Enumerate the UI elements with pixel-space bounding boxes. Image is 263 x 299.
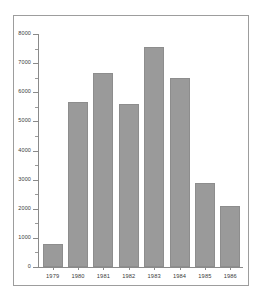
y-tick-label: 0 [28,263,31,269]
y-minor-tick-mark [35,49,38,50]
y-minor-tick-mark [35,194,38,195]
y-axis-line [38,34,39,267]
bar [195,183,215,267]
x-tick-label: 1980 [66,273,90,279]
bar [43,244,63,267]
y-tick-label: 4000 [18,147,31,153]
x-tick-label: 1986 [218,273,242,279]
bar [119,104,139,267]
x-tick-label: 1983 [142,273,166,279]
y-minor-tick-mark [35,223,38,224]
x-tick-label: 1981 [91,273,115,279]
y-tick-label-wrap: 5000 [33,121,38,122]
y-tick-label: 1000 [18,234,31,240]
x-tick-label: 1985 [193,273,217,279]
y-tick-label: 3000 [18,176,31,182]
y-tick-label-wrap: 0 [33,267,38,268]
bar [93,73,113,267]
x-tick-mark [129,267,130,270]
y-tick-label: 8000 [18,30,31,36]
y-tick-label-wrap: 2000 [33,209,38,210]
bar [170,78,190,267]
y-tick-label-wrap: 8000 [33,34,38,35]
y-tick-label-wrap: 6000 [33,92,38,93]
bar [220,206,240,267]
bar [144,47,164,267]
y-tick-label: 5000 [18,117,31,123]
x-axis-line [38,267,243,268]
y-tick-label: 7000 [18,59,31,65]
x-tick-mark [78,267,79,270]
y-tick-label-wrap: 1000 [33,238,38,239]
x-tick-mark [53,267,54,270]
y-tick-label: 6000 [18,88,31,94]
x-tick-mark [230,267,231,270]
bar [68,102,88,267]
x-tick-label: 1979 [41,273,65,279]
y-tick-label-wrap: 3000 [33,180,38,181]
x-tick-mark [205,267,206,270]
y-tick-label-wrap: 4000 [33,151,38,152]
x-tick-label: 1984 [168,273,192,279]
x-tick-label: 1982 [117,273,141,279]
x-tick-mark [154,267,155,270]
y-minor-tick-mark [35,252,38,253]
x-tick-mark [103,267,104,270]
figure-canvas: 010002000300040005000600070008000 197919… [0,0,263,299]
y-minor-tick-mark [35,136,38,137]
x-tick-mark [180,267,181,270]
y-minor-tick-mark [35,165,38,166]
y-minor-tick-mark [35,107,38,108]
y-tick-label: 2000 [18,205,31,211]
y-tick-label-wrap: 7000 [33,63,38,64]
y-minor-tick-mark [35,78,38,79]
